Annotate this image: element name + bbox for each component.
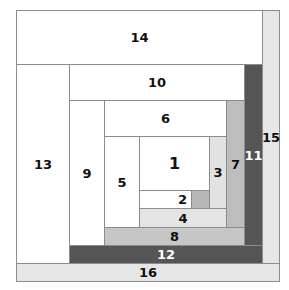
block-5: 5 [104,136,140,228]
block-label: 14 [130,30,148,45]
block-9: 9 [69,100,105,246]
block-15: 15 [262,10,280,264]
block-10: 10 [69,64,245,101]
block-label: 3 [213,165,222,180]
block-label: 9 [82,166,91,181]
block-12: 12 [69,245,263,264]
block-label: 8 [170,229,179,244]
block-label: 11 [244,148,262,163]
block-label: 16 [139,265,157,280]
block-2-square [191,190,210,209]
block-label: 2 [178,192,187,207]
block-2: 2 [139,190,192,209]
block-label: 12 [157,247,175,262]
block-label: 1 [169,154,180,173]
block-16: 16 [16,263,280,282]
block-11: 11 [244,64,263,246]
block-4: 4 [139,208,227,228]
block-7: 7 [226,100,245,228]
block-3: 3 [209,136,227,209]
block-label: 10 [148,75,166,90]
block-8: 8 [104,227,245,246]
block-label: 7 [231,157,240,172]
block-label: 15 [262,130,280,145]
block-1: 1 [139,136,210,191]
block-6: 6 [104,100,227,137]
block-14: 14 [16,10,263,65]
block-13: 13 [16,64,70,264]
block-label: 6 [161,111,170,126]
block-label: 13 [34,157,52,172]
block-label: 5 [117,175,126,190]
block-label: 4 [178,211,187,226]
